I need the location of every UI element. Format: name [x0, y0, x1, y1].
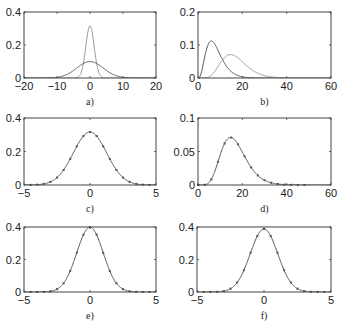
axes-frame — [198, 12, 331, 78]
subplot-d: 020406000.050.1d) — [174, 112, 338, 215]
data-point — [217, 161, 219, 163]
data-point — [82, 135, 84, 137]
axes-frame — [24, 12, 156, 78]
data-point — [56, 177, 58, 179]
data-point — [264, 179, 266, 181]
data-point — [243, 269, 245, 271]
y-tick-label: 0.05 — [174, 146, 195, 158]
data-point — [210, 178, 212, 180]
x-tick-label: 20 — [236, 187, 248, 199]
data-point — [102, 145, 104, 147]
y-tick-label: 0 — [189, 72, 195, 84]
data-point — [230, 137, 232, 139]
data-point — [297, 288, 299, 290]
series-line-fit — [24, 132, 156, 185]
y-tick-label: 0.2 — [6, 254, 21, 266]
data-point — [224, 142, 226, 144]
data-point — [122, 288, 124, 290]
data-point — [244, 155, 246, 157]
data-point — [109, 270, 111, 272]
y-tick-label: 0.4 — [6, 112, 21, 124]
series-line-fit — [197, 229, 331, 292]
subplot-caption: c) — [86, 203, 94, 215]
data-point — [115, 169, 117, 171]
data-point — [270, 235, 272, 237]
figure: −20−100102000.20.4a)020406000.10.2b)−505… — [0, 0, 340, 334]
subplot-e: −50500.20.4e) — [6, 221, 159, 322]
data-point — [276, 252, 278, 254]
x-tick-label: 20 — [150, 80, 162, 92]
x-tick-label: 0 — [195, 80, 201, 92]
data-point — [122, 177, 124, 179]
subplot-caption: e) — [86, 310, 94, 322]
y-tick-label: 0.2 — [179, 254, 194, 266]
y-tick-label: 0.2 — [6, 39, 21, 51]
data-point — [63, 169, 65, 171]
x-tick-label: 5 — [153, 187, 159, 199]
data-point — [290, 281, 292, 283]
data-point — [89, 131, 91, 133]
axes-frame — [24, 227, 156, 292]
data-point — [69, 270, 71, 272]
data-point — [69, 158, 71, 160]
data-point — [236, 281, 238, 283]
y-tick-label: 0 — [15, 179, 21, 191]
y-tick-label: 0.4 — [6, 6, 21, 18]
x-tick-label: 0 — [87, 80, 93, 92]
data-point — [76, 145, 78, 147]
data-point — [115, 282, 117, 284]
x-tick-label: 40 — [281, 80, 293, 92]
x-tick-label: 0 — [195, 187, 201, 199]
subplot-c: −50500.20.4c) — [6, 112, 159, 215]
y-tick-label: 0 — [15, 72, 21, 84]
x-tick-label: 5 — [153, 294, 159, 306]
subplot-f: −50500.20.4f) — [179, 221, 334, 322]
y-tick-label: 0.2 — [6, 146, 21, 158]
y-tick-label: 0.2 — [180, 6, 195, 18]
data-point — [257, 174, 259, 176]
data-point — [49, 181, 51, 183]
axes-frame — [24, 118, 156, 185]
subplot-caption: b) — [260, 96, 268, 108]
data-point — [56, 288, 58, 290]
axes-frame — [197, 227, 331, 292]
series-line-wide-normal — [24, 62, 156, 78]
y-tick-label: 0.4 — [6, 221, 21, 233]
data-point — [250, 252, 252, 254]
y-tick-label: 0 — [15, 286, 21, 298]
series-line-narrow-normal — [24, 26, 156, 78]
subplot-caption: f) — [261, 310, 268, 322]
x-tick-label: 40 — [281, 187, 293, 199]
y-tick-label: 0.1 — [180, 112, 195, 124]
series-line-gamma-right — [198, 55, 331, 78]
data-point — [63, 282, 65, 284]
data-point — [270, 182, 272, 184]
x-tick-label: 20 — [236, 80, 248, 92]
data-point — [237, 143, 239, 145]
y-tick-label: 0 — [189, 179, 195, 191]
series-line-fit — [24, 227, 156, 292]
data-point — [82, 234, 84, 236]
data-point — [102, 252, 104, 254]
data-point — [96, 234, 98, 236]
y-tick-label: 0 — [188, 286, 194, 298]
series-line-gamma-left — [198, 41, 331, 78]
x-tick-label: 60 — [325, 80, 337, 92]
data-point — [283, 269, 285, 271]
x-tick-label: 0 — [87, 294, 93, 306]
data-point — [96, 135, 98, 137]
data-point — [250, 166, 252, 168]
y-tick-label: 0.1 — [180, 39, 195, 51]
x-tick-label: 60 — [325, 187, 337, 199]
axes-frame — [198, 118, 331, 185]
data-point — [129, 181, 131, 183]
x-tick-label: −10 — [48, 80, 67, 92]
x-tick-label: 0 — [261, 294, 267, 306]
subplot-b: 020406000.10.2b) — [180, 6, 337, 108]
subplot-caption: d) — [260, 203, 268, 215]
x-tick-label: 5 — [328, 294, 334, 306]
data-point — [230, 288, 232, 290]
data-point — [109, 158, 111, 160]
x-tick-label: 10 — [117, 80, 129, 92]
subplot-a: −20−100102000.20.4a) — [6, 6, 162, 108]
